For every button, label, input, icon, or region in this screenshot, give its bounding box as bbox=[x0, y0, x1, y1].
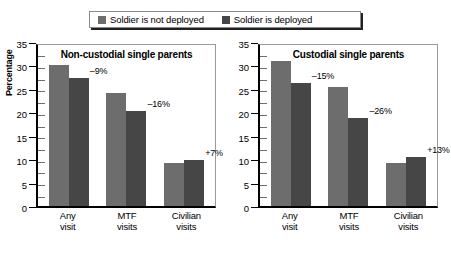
legend-swatch-deployed bbox=[222, 16, 230, 24]
y-axis-tick-label: 10 bbox=[7, 156, 27, 167]
y-axis-tick bbox=[29, 113, 36, 114]
y-axis-minor-tick bbox=[38, 127, 45, 128]
y-axis-minor-tick bbox=[260, 185, 267, 186]
y-axis-minor-tick bbox=[38, 162, 45, 163]
x-axis-label-line: visits bbox=[160, 221, 212, 232]
y-axis-tick bbox=[29, 137, 36, 138]
y-axis-tick-label: 5 bbox=[229, 179, 249, 190]
y-axis-tick bbox=[251, 137, 258, 138]
x-axis-label: MTFvisits bbox=[101, 210, 153, 232]
y-axis-minor-tick bbox=[260, 127, 267, 128]
y-axis-tick-label: 0 bbox=[7, 203, 27, 214]
y-axis-minor-tick bbox=[260, 91, 267, 92]
bar-group: –16% bbox=[106, 45, 146, 206]
bar-not-deployed bbox=[49, 65, 69, 206]
x-axis-label-line: Any bbox=[42, 210, 94, 221]
plot-frame: Non-custodial single parents –9%–16%+7% bbox=[36, 44, 216, 208]
y-axis-tick-label: 15 bbox=[229, 132, 249, 143]
x-axis-label-line: MTF bbox=[101, 210, 153, 221]
y-axis-tick bbox=[29, 90, 36, 91]
y-axis-minor-tick bbox=[38, 115, 45, 116]
bar-deployed: –16% bbox=[126, 111, 146, 206]
y-axis-minor-tick bbox=[260, 162, 267, 163]
bar-groups: –9%–16%+7% bbox=[40, 45, 213, 206]
bar-group: –9% bbox=[49, 45, 89, 206]
chart-title-non-custodial: Non-custodial single parents bbox=[38, 49, 215, 60]
y-axis-minor-tick bbox=[260, 115, 267, 116]
y-axis-tick bbox=[29, 160, 36, 161]
y-axis-minor-tick bbox=[38, 68, 45, 69]
y-axis-minor-tick bbox=[260, 80, 267, 81]
y-axis-tick bbox=[29, 43, 36, 44]
legend-swatch-not-deployed bbox=[98, 16, 106, 24]
y-axis-minor-tick bbox=[260, 138, 267, 139]
bar-not-deployed bbox=[386, 163, 406, 206]
bar-deployed: –9% bbox=[69, 78, 89, 206]
y-axis-tick bbox=[251, 207, 258, 208]
x-axis-label: Anyvisit bbox=[42, 210, 94, 232]
y-axis-minor-tick bbox=[38, 138, 45, 139]
x-axis-label: Civilianvisits bbox=[160, 210, 212, 232]
plot-area-custodial: Custodial single parents –15%–26%+13% 05… bbox=[258, 44, 438, 208]
y-axis-minor-tick bbox=[38, 80, 45, 81]
legend-label-deployed: Soldier is deployed bbox=[234, 15, 312, 25]
bar-not-deployed bbox=[328, 87, 348, 206]
y-axis-minor-tick bbox=[38, 173, 45, 174]
x-axis-label-line: visit bbox=[42, 221, 94, 232]
x-axis-label-line: MTF bbox=[323, 210, 375, 221]
y-axis-tick-label: 10 bbox=[229, 156, 249, 167]
bar-deployed: +7% bbox=[184, 160, 204, 206]
legend-entry-not-deployed: Soldier is not deployed bbox=[98, 12, 204, 27]
y-axis-tick bbox=[251, 160, 258, 161]
y-axis-tick-label: 30 bbox=[7, 62, 27, 73]
x-axis-label-line: visits bbox=[382, 221, 434, 232]
y-axis-tick bbox=[251, 66, 258, 67]
y-axis-tick bbox=[251, 184, 258, 185]
y-axis-tick bbox=[251, 43, 258, 44]
y-axis-tick-label: 5 bbox=[7, 179, 27, 190]
x-axis-label: Civilianvisits bbox=[382, 210, 434, 232]
y-axis-minor-tick bbox=[260, 173, 267, 174]
y-axis-tick-label: 20 bbox=[229, 109, 249, 120]
chart-title-custodial: Custodial single parents bbox=[260, 49, 437, 60]
y-axis-tick bbox=[29, 207, 36, 208]
y-axis-minor-tick bbox=[38, 103, 45, 104]
x-axis-label-line: visit bbox=[264, 221, 316, 232]
legend-entry-deployed: Soldier is deployed bbox=[222, 12, 312, 27]
plot-frame: Custodial single parents –15%–26%+13% bbox=[258, 44, 438, 208]
y-axis-tick-label: 20 bbox=[7, 109, 27, 120]
y-axis-tick-label: 0 bbox=[229, 203, 249, 214]
x-axis-label-line: Civilian bbox=[160, 210, 212, 221]
x-axis-labels: AnyvisitMTFvisitsCivilianvisits bbox=[260, 210, 438, 232]
x-axis-label: Anyvisit bbox=[264, 210, 316, 232]
y-axis-tick-label: 35 bbox=[229, 39, 249, 50]
y-axis-tick bbox=[251, 90, 258, 91]
bar-delta-label: +7% bbox=[205, 148, 223, 158]
y-axis-minor-tick bbox=[260, 103, 267, 104]
x-axis-label-line: Any bbox=[264, 210, 316, 221]
x-axis-label-line: visits bbox=[101, 221, 153, 232]
bar-group: –15% bbox=[271, 45, 311, 206]
bar-group: +7% bbox=[164, 45, 204, 206]
y-axis-tick-label: 30 bbox=[229, 62, 249, 73]
y-axis-minor-tick bbox=[260, 68, 267, 69]
x-axis-label: MTFvisits bbox=[323, 210, 375, 232]
chart-legend: Soldier is not deployed Soldier is deplo… bbox=[89, 11, 361, 28]
y-axis-minor-tick bbox=[38, 185, 45, 186]
y-axis-tick-label: 15 bbox=[7, 132, 27, 143]
y-axis-tick bbox=[29, 184, 36, 185]
bar-group: +13% bbox=[386, 45, 426, 206]
y-axis-minor-tick bbox=[38, 91, 45, 92]
plot-area-non-custodial: Non-custodial single parents –9%–16%+7% … bbox=[36, 44, 216, 208]
y-axis-tick bbox=[29, 66, 36, 67]
y-axis-tick-label: 25 bbox=[7, 85, 27, 96]
bar-not-deployed bbox=[164, 163, 184, 206]
y-axis-minor-tick bbox=[260, 197, 267, 198]
y-axis-tick bbox=[251, 113, 258, 114]
legend-label-not-deployed: Soldier is not deployed bbox=[110, 15, 204, 25]
bar-delta-label: –9% bbox=[90, 66, 107, 76]
bar-deployed: +13% bbox=[406, 157, 426, 206]
y-axis-minor-tick bbox=[38, 197, 45, 198]
bar-deployed: –15% bbox=[291, 83, 311, 206]
y-axis-minor-tick bbox=[38, 150, 45, 151]
